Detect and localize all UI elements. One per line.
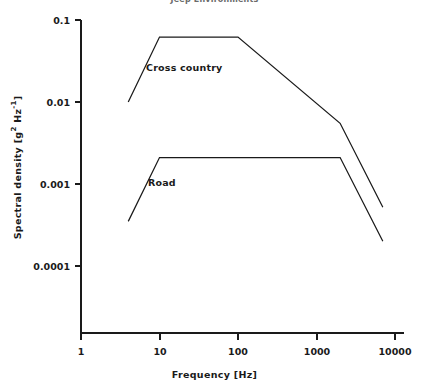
- chart-figure: Jeep Environments 0.1 0.01 0.001 0.0001 …: [0, 0, 429, 392]
- y-axis-title-end: ]: [12, 96, 23, 101]
- series-annotation-road: Road: [148, 177, 176, 188]
- y-axis-ticks: [75, 20, 81, 266]
- x-tick-label-10: 10: [153, 346, 166, 357]
- x-tick-label-10000: 10000: [378, 346, 411, 357]
- x-tick-label-1: 1: [78, 346, 85, 357]
- y-axis-title-main: Spectral density [g: [12, 132, 23, 240]
- series-annotation-cross-country: Cross country: [146, 62, 223, 73]
- y-tick-label-0.001: 0.001: [20, 179, 70, 190]
- y-axis-title-mid: Hz: [12, 109, 23, 127]
- x-axis-ticks: [81, 333, 395, 340]
- series-line-road: [128, 158, 383, 242]
- plot-area: [0, 0, 429, 392]
- x-axis-title: Frequency [Hz]: [0, 369, 429, 380]
- y-axis-title: Spectral density [g2 Hz-1]: [12, 78, 23, 258]
- x-tick-label-100: 100: [228, 346, 248, 357]
- y-tick-label-0.1: 0.1: [20, 15, 70, 26]
- y-axis-title-exponent-g: 2: [10, 126, 18, 131]
- y-tick-label-0.01: 0.01: [20, 97, 70, 108]
- x-tick-label-1000: 1000: [304, 346, 330, 357]
- y-axis-title-exponent-hz: -1: [10, 100, 18, 108]
- y-tick-label-0.0001: 0.0001: [14, 261, 70, 272]
